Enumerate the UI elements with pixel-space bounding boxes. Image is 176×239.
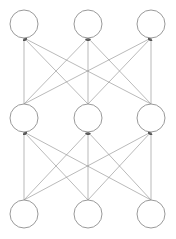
node-middle-1	[74, 104, 102, 132]
node-bottom-1	[74, 200, 102, 228]
node-bottom-2	[137, 200, 165, 228]
network-diagram	[0, 0, 176, 239]
node-middle-2	[137, 104, 165, 132]
node-top-2	[137, 10, 165, 38]
node-middle-0	[10, 104, 38, 132]
node-top-1	[74, 10, 102, 38]
node-bottom-0	[10, 200, 38, 228]
node-top-0	[10, 10, 38, 38]
